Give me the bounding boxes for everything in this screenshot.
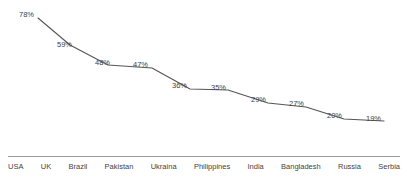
x-axis-label-uk: UK [41,163,51,171]
plot-area: 78% 59% 48% 47% 36% 35% 29% 27% 20% 19% [0,0,407,150]
data-point-label: 36% [172,82,187,90]
data-point-label: 27% [289,100,304,108]
data-point-label: 19% [366,115,381,123]
data-point-label: 20% [327,112,342,120]
x-axis-label-bangladesh: Bangladesh [281,163,321,171]
x-axis-label-india: India [247,163,263,171]
x-axis-label-philippines: Philippines [194,163,230,171]
line-chart: 78% 59% 48% 47% 36% 35% 29% 27% 20% 19% … [0,0,407,183]
x-axis-category-labels: USA UK Brazil Pakistan Ukraina Philippin… [8,163,400,179]
x-axis-label-serbia: Serbia [378,163,400,171]
chart-line-svg [0,0,407,150]
data-point-label: 48% [95,59,110,67]
x-axis-label-russia: Russia [338,163,361,171]
x-axis-line [8,156,400,157]
x-axis-label-usa: USA [8,163,23,171]
data-point-label: 47% [133,61,148,69]
data-point-label: 35% [211,84,226,92]
data-point-label: 59% [57,41,72,49]
x-axis-label-ukraina: Ukraina [151,163,177,171]
data-point-label: 78% [19,11,34,19]
data-series-line [38,18,384,121]
x-axis-label-pakistan: Pakistan [105,163,134,171]
data-point-label: 29% [251,96,266,104]
x-axis-label-brazil: Brazil [69,163,88,171]
